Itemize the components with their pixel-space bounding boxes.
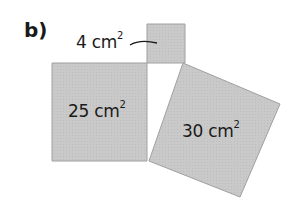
area-unit: cm <box>92 32 117 52</box>
left-square-label: 25 cm2 <box>68 101 126 121</box>
unit-exponent: 2 <box>233 119 239 130</box>
unit-exponent: 2 <box>119 99 125 110</box>
area-value: 25 <box>68 101 89 121</box>
squares-diagram <box>0 0 295 199</box>
area-unit: cm <box>94 101 119 121</box>
small-square-label: 4 cm2 <box>76 32 123 52</box>
small-square <box>147 24 185 63</box>
tilted-square-label: 30 cm2 <box>182 121 240 141</box>
area-value: 4 <box>76 32 87 52</box>
unit-exponent: 2 <box>117 30 123 41</box>
area-value: 30 <box>182 121 203 141</box>
area-unit: cm <box>208 121 233 141</box>
